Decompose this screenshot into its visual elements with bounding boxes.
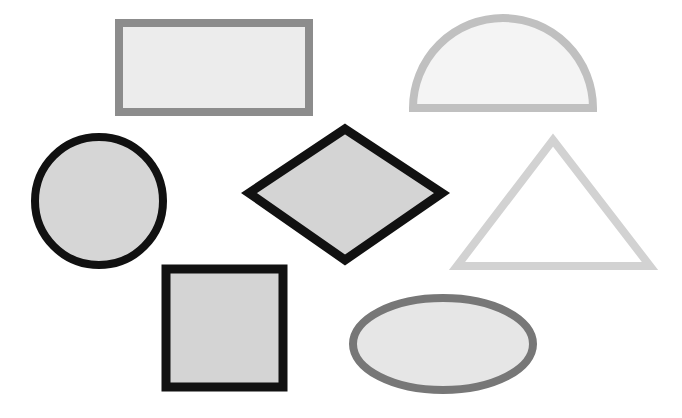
triangle-shape <box>457 140 650 266</box>
shapes-canvas <box>0 0 682 418</box>
ellipse-shape <box>353 298 533 390</box>
half-circle-shape <box>413 18 593 108</box>
rectangle-shape <box>119 23 309 112</box>
square-shape <box>166 269 283 387</box>
diamond-shape <box>249 129 442 260</box>
circle-shape <box>35 137 163 265</box>
shapes-svg <box>0 0 682 418</box>
